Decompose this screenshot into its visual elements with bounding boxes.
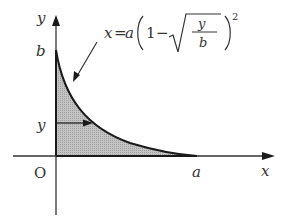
svg-text:2: 2 (232, 11, 238, 22)
origin-label: O (34, 164, 46, 182)
a-label: a (192, 163, 201, 181)
shaded-region (56, 50, 197, 156)
strip-y-label: y (36, 116, 46, 134)
y-axis-label: y (36, 9, 46, 27)
x-axis-label: x (261, 162, 270, 180)
y-axis-arrow-icon (52, 15, 60, 26)
svg-text:y: y (197, 16, 206, 31)
svg-text:b: b (199, 35, 207, 50)
svg-text:−: − (156, 24, 169, 42)
svg-text:1: 1 (146, 24, 156, 42)
diagram-canvas: y x O b a y x = a 1 − y b 2 (0, 0, 282, 220)
svg-text:a: a (125, 24, 134, 42)
diagram-svg: y x O b a y x = a 1 − y b 2 (0, 0, 282, 220)
curve-equation: x = a 1 − y b 2 (104, 11, 238, 52)
pointer-arrow-line (77, 42, 97, 76)
b-label: b (36, 42, 46, 60)
x-axis-arrow-icon (262, 152, 275, 160)
svg-text:x: x (104, 24, 113, 42)
